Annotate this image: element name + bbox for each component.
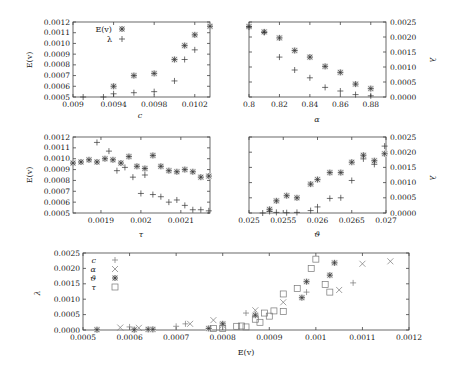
x-tick-label: 0.0006	[116, 333, 142, 342]
y-tick-label: 0.0005	[54, 310, 80, 319]
x-tick-label: 0.88	[362, 100, 379, 109]
p1-legend-lambda: λ	[107, 35, 112, 44]
y-tick-label: 0.0011	[44, 143, 70, 152]
y-tick-label: 0.0015	[54, 279, 80, 288]
x-tick-label: 0.0007	[163, 333, 189, 342]
y-tick-label: 0.0020	[54, 264, 80, 273]
panel-theta-plot: 0.0250.02550.0260.02650.0270.00000.00050…	[238, 133, 416, 226]
plot-frame	[249, 137, 386, 213]
x-tick-label: 0.0102	[182, 100, 208, 109]
panel-tau-plot: 0.00190.0020.00210.00050.00060.00070.000…	[44, 133, 212, 226]
y-tick-label: 0.0006	[44, 82, 70, 91]
y-tick-label: 0.0020	[390, 33, 416, 42]
p4-xlabel: ϑ	[314, 230, 320, 239]
y-tick-label: 0.0000	[54, 326, 80, 335]
p5-legend-alpha: α	[91, 265, 97, 274]
x-tick-label: 0.002	[130, 216, 152, 225]
x-tick-label: 0.0008	[210, 333, 236, 342]
x-tick-label: 0.0265	[339, 216, 365, 225]
x-tick-label: 0.001	[305, 333, 326, 342]
p4-ylabel: λ	[428, 174, 437, 180]
y-tick-label: 0.0015	[390, 163, 416, 172]
x-tick-label: 0.0009	[256, 333, 282, 342]
x-tick-label: 0.0094	[100, 100, 126, 109]
p1-xlabel: c	[138, 111, 143, 120]
x-tick-label: 0.84	[302, 100, 319, 109]
p5-legend-theta: ϑ	[90, 274, 96, 283]
x-tick-label: 0.8	[243, 100, 255, 109]
p1-legend-ev: E(v)	[95, 25, 112, 34]
y-tick-label: 0.0008	[44, 60, 70, 69]
y-tick-label: 0.0025	[390, 18, 416, 27]
x-tick-label: 0.0098	[141, 100, 167, 109]
y-tick-label: 0.0012	[44, 18, 70, 27]
y-tick-label: 0.0007	[44, 187, 70, 196]
panel-c-plot: 0.0090.00940.00980.01020.00050.00060.000…	[44, 18, 213, 110]
y-tick-label: 0.0005	[44, 209, 70, 218]
y-tick-label: 0.0005	[44, 93, 70, 102]
plot-frame	[73, 137, 210, 213]
y-tick-label: 0.0009	[44, 165, 70, 174]
y-tick-label: 0.0005	[390, 78, 416, 87]
x-tick-label: 0.025	[238, 216, 260, 225]
p5-ylabel: λ	[33, 290, 42, 296]
x-tick-label: 0.0255	[270, 216, 296, 225]
y-tick-label: 0.0015	[390, 48, 416, 57]
p5-legend-c: c	[92, 256, 97, 265]
p5-xlabel: E(v)	[238, 348, 255, 357]
x-tick-label: 0.0019	[88, 216, 114, 225]
plot-frame	[249, 22, 386, 97]
panel-alpha-plot: 0.80.820.840.860.880.00000.00050.00100.0…	[243, 18, 416, 110]
x-tick-label: 0.0012	[396, 333, 422, 342]
y-tick-label: 0.0025	[390, 133, 416, 142]
y-tick-label: 0.0007	[44, 71, 70, 80]
y-tick-label: 0.0010	[44, 39, 70, 48]
y-tick-label: 0.0010	[54, 295, 80, 304]
y-tick-label: 0.0010	[390, 63, 416, 72]
y-tick-label: 0.0010	[390, 178, 416, 187]
panel-lambda-vs-ev-plot: 0.00050.00060.00070.00080.00090.0010.001…	[54, 249, 423, 343]
y-tick-label: 0.0010	[44, 154, 70, 163]
y-tick-label: 0.0005	[390, 193, 416, 202]
figure: 0.0090.00940.00980.01020.00050.00060.000…	[0, 0, 457, 371]
p2-xlabel: α	[314, 115, 320, 124]
y-tick-label: 0.0020	[390, 148, 416, 157]
y-tick-label: 0.0012	[44, 133, 70, 142]
plot-frame	[83, 253, 409, 330]
p5-legend-tau: τ	[92, 283, 97, 292]
x-tick-label: 0.0021	[168, 216, 194, 225]
x-tick-label: 0.0011	[349, 333, 375, 342]
p3-xlabel: τ	[139, 230, 144, 239]
p2-ylabel: λ	[428, 56, 437, 62]
y-tick-label: 0.0000	[390, 93, 416, 102]
y-tick-label: 0.0011	[44, 28, 70, 37]
p3-ylabel: E(v)	[25, 167, 34, 184]
p1-ylabel: E(v)	[25, 52, 34, 69]
plot-frame	[73, 22, 210, 97]
y-tick-label: 0.0025	[54, 249, 80, 258]
y-tick-label: 0.0000	[390, 209, 416, 218]
x-tick-label: 0.82	[271, 100, 288, 109]
y-tick-label: 0.0008	[44, 176, 70, 185]
x-tick-label: 0.86	[332, 100, 349, 109]
x-tick-label: 0.026	[307, 216, 329, 225]
y-tick-label: 0.0006	[44, 198, 70, 207]
y-tick-label: 0.0009	[44, 50, 70, 59]
